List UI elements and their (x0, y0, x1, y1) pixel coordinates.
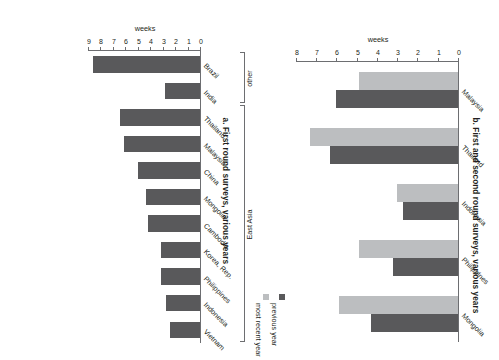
chart-b-category-label: Mongolia (460, 311, 487, 338)
chart-b-bar-row (296, 240, 458, 258)
chart-b-bar-row (296, 258, 458, 276)
chart-b-tick (357, 58, 358, 62)
chart-a-tick (88, 47, 89, 51)
chart-a-tick-label: 2 (174, 38, 178, 45)
chart-a-tick (188, 47, 189, 51)
chart-a-category-axis-line (89, 50, 201, 51)
chart-a-tick-label: 7 (112, 38, 116, 45)
chart-a-tick-label: 8 (100, 38, 104, 45)
chart-a-tick-label: 0 (199, 38, 203, 45)
chart-b-bar (330, 146, 458, 164)
chart-a-tick-label: 9 (87, 38, 91, 45)
chart-a-bar-row (88, 136, 200, 152)
chart-a-bar-row (88, 189, 200, 205)
legend-swatch-icon (279, 294, 285, 300)
chart-b-bar (359, 72, 458, 90)
chart-a-bar (138, 162, 200, 178)
chart-panel-b: b. First and second round surveys, vario… (250, 0, 499, 360)
chart-b-tick-label: 2 (417, 49, 421, 56)
chart-b-tick-label: 6 (336, 49, 340, 56)
chart-b-tick (418, 58, 419, 62)
chart-b-category-axis-line (297, 61, 459, 62)
chart-b-bar-row (296, 296, 458, 314)
chart-b-bar (403, 202, 458, 220)
chart-b-bar (371, 314, 458, 332)
chart-a-bar (166, 295, 200, 311)
bracket-cap-icon (240, 102, 244, 103)
chart-a-bar (147, 189, 201, 205)
chart-a-bar (93, 56, 200, 72)
chart-a-bar (161, 242, 200, 258)
chart-b-legend-label: most recent year (254, 303, 263, 357)
chart-b-tick (397, 58, 398, 62)
chart-b-tick (337, 58, 338, 62)
chart-b-bar (337, 90, 459, 108)
chart-a-bar (161, 268, 200, 284)
chart-b-bar-row (296, 202, 458, 220)
chart-b-bar (397, 184, 458, 202)
chart-b-bar-row (296, 184, 458, 202)
chart-a-tick-label: 5 (137, 38, 141, 45)
chart-a-bar-row (88, 215, 200, 231)
chart-b-axis-title: weeks (358, 35, 398, 44)
chart-a-tick-label: 4 (149, 38, 153, 45)
chart-a-category-label: Brazil (202, 62, 221, 81)
chart-a-bar-row (88, 295, 200, 311)
legend-swatch-icon (263, 294, 269, 300)
chart-panel-a: a. First round surveys, various years 01… (0, 0, 249, 360)
chart-a-bar (165, 83, 200, 99)
bracket-cap-icon (240, 105, 244, 106)
chart-a-bar (120, 109, 200, 125)
chart-a-tick (200, 47, 201, 51)
chart-b-tick (296, 58, 297, 62)
chart-a-plot-area: 0123456789 VietnamIndonesiaPhilippinesKo… (89, 51, 201, 343)
chart-b-tick-label: 0 (457, 49, 461, 56)
chart-b-tick (316, 58, 317, 62)
chart-b-tick-label: 7 (315, 49, 319, 56)
chart-b-category-label: Malaysia (460, 87, 486, 113)
chart-a-category-label: China (202, 168, 222, 188)
chart-a-bar-row (88, 162, 200, 178)
chart-b-tick (438, 58, 439, 62)
chart-b-legend-label: previous year (270, 303, 279, 346)
chart-a-bar-row (88, 56, 200, 72)
bracket-cap-icon (240, 341, 244, 342)
chart-b-tick (377, 58, 378, 62)
chart-a-tick (138, 47, 139, 51)
chart-a-category-label: India (202, 88, 219, 105)
chart-a-bar-row (88, 83, 200, 99)
chart-a-bar (170, 322, 200, 338)
chart-a-bar (148, 215, 200, 231)
chart-b-value-axis-line (458, 62, 459, 342)
chart-b-tick-label: 1 (437, 49, 441, 56)
chart-b-tick (458, 58, 459, 62)
chart-a-value-axis-line (200, 51, 201, 343)
chart-a-bar-row (88, 268, 200, 284)
chart-a-bar-row (88, 109, 200, 125)
chart-b-bar-row (296, 72, 458, 90)
chart-b-bar-row (296, 314, 458, 332)
chart-a-tick (113, 47, 114, 51)
chart-b-tick-label: 3 (396, 49, 400, 56)
chart-a-tick (150, 47, 151, 51)
chart-b-tick-label: 4 (376, 49, 380, 56)
chart-a-bar (124, 136, 200, 152)
chart-a-bar-row (88, 242, 200, 258)
chart-a-tick-label: 3 (162, 38, 166, 45)
chart-b-plot-area: 012345678 MongoliaPhilippinesIndonesiaTh… (297, 62, 459, 342)
chart-b-tick-label: 5 (356, 49, 360, 56)
chart-b-title: b. First and second round surveys, vario… (471, 118, 480, 258)
chart-b-bar-row (296, 146, 458, 164)
chart-b-bar (359, 240, 458, 258)
chart-a-tick (175, 47, 176, 51)
chart-a-axis-title: weeks (125, 24, 165, 33)
chart-a-tick (125, 47, 126, 51)
chart-a-tick (163, 47, 164, 51)
chart-a-bar-row (88, 322, 200, 338)
chart-a-tick-label: 1 (187, 38, 191, 45)
chart-a-tick (100, 47, 101, 51)
chart-b-bar (393, 258, 458, 276)
figure-page: a. First round surveys, various years 01… (0, 0, 499, 360)
chart-b-bar-row (296, 90, 458, 108)
chart-b-bar-row (296, 128, 458, 146)
